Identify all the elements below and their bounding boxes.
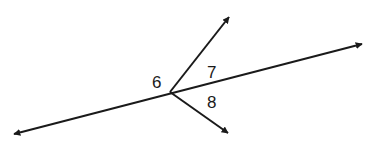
angle-7-label: 7 (207, 63, 216, 82)
transversal-line (14, 44, 362, 134)
angle-8-label: 8 (207, 93, 216, 112)
angle-diagram: 6 7 8 (0, 0, 370, 148)
angle-6-label: 6 (152, 73, 161, 92)
lower-ray (170, 92, 228, 133)
